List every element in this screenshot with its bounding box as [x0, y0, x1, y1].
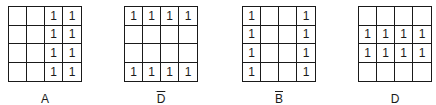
- map-cell: 1: [395, 26, 413, 45]
- map-cell: [143, 44, 161, 63]
- map-cell: [261, 44, 279, 63]
- map-cell: [9, 26, 27, 45]
- map-cell: 1: [143, 63, 161, 82]
- map-cell: 1: [179, 7, 197, 26]
- karnaugh-map-d: 11111111D: [358, 6, 432, 82]
- map-cell: [161, 44, 179, 63]
- map-label: D: [124, 92, 198, 105]
- map-cell: [279, 26, 297, 45]
- map-label-text: D: [157, 92, 166, 105]
- map-cell: 1: [45, 7, 63, 26]
- map-cell: [377, 63, 395, 82]
- map-cell: 1: [125, 7, 143, 26]
- map-cell: [27, 63, 45, 82]
- map-cell: [179, 44, 197, 63]
- map-grid: 11111111: [242, 6, 316, 82]
- map-cell: [261, 63, 279, 82]
- karnaugh-map-not-b: 11111111B: [242, 6, 316, 82]
- map-cell: 1: [63, 63, 81, 82]
- map-cell: 1: [243, 26, 261, 45]
- map-cell: [27, 44, 45, 63]
- map-grid: 11111111: [8, 6, 82, 82]
- map-cell: 1: [359, 44, 377, 63]
- map-cell: 1: [377, 26, 395, 45]
- map-cell: [261, 26, 279, 45]
- map-cell: [395, 63, 413, 82]
- map-cell: 1: [297, 7, 315, 26]
- map-cell: 1: [243, 63, 261, 82]
- map-cell: [143, 26, 161, 45]
- map-cell: 1: [395, 44, 413, 63]
- map-cell: [377, 7, 395, 26]
- map-cell: 1: [161, 63, 179, 82]
- map-cell: 1: [413, 44, 431, 63]
- map-cell: 1: [161, 7, 179, 26]
- map-cell: [279, 44, 297, 63]
- map-label: D: [358, 92, 432, 105]
- karnaugh-map-not-d: 11111111D: [124, 6, 198, 82]
- map-cell: [179, 26, 197, 45]
- map-grid: 11111111: [124, 6, 198, 82]
- map-cell: [279, 63, 297, 82]
- map-cell: [27, 7, 45, 26]
- map-cell: 1: [125, 63, 143, 82]
- map-cell: 1: [243, 44, 261, 63]
- map-cell: [9, 63, 27, 82]
- map-label-text: D: [391, 92, 400, 105]
- map-label-text: A: [41, 92, 49, 105]
- map-cell: 1: [377, 44, 395, 63]
- map-grid: 11111111: [358, 6, 432, 82]
- map-cell: 1: [179, 63, 197, 82]
- map-cell: 1: [297, 63, 315, 82]
- map-cell: [9, 7, 27, 26]
- map-cell: [27, 26, 45, 45]
- map-cell: [9, 44, 27, 63]
- map-cell: [395, 7, 413, 26]
- map-cell: 1: [45, 44, 63, 63]
- map-cell: 1: [413, 26, 431, 45]
- map-cell: 1: [63, 7, 81, 26]
- map-cell: 1: [45, 26, 63, 45]
- map-label: B: [242, 92, 316, 105]
- map-cell: [125, 44, 143, 63]
- map-cell: [359, 63, 377, 82]
- map-cell: [161, 26, 179, 45]
- map-cell: 1: [143, 7, 161, 26]
- map-cell: [279, 7, 297, 26]
- map-cell: [359, 7, 377, 26]
- karnaugh-map-a: 11111111A: [8, 6, 82, 82]
- map-cell: [125, 26, 143, 45]
- map-label: A: [8, 92, 82, 105]
- map-cell: 1: [297, 26, 315, 45]
- map-cell: 1: [359, 26, 377, 45]
- map-cell: 1: [297, 44, 315, 63]
- map-cell: [413, 7, 431, 26]
- map-cell: [261, 7, 279, 26]
- map-cell: 1: [45, 63, 63, 82]
- map-label-text: B: [275, 92, 283, 105]
- map-cell: [413, 63, 431, 82]
- map-cell: 1: [63, 26, 81, 45]
- map-cell: 1: [243, 7, 261, 26]
- map-cell: 1: [63, 44, 81, 63]
